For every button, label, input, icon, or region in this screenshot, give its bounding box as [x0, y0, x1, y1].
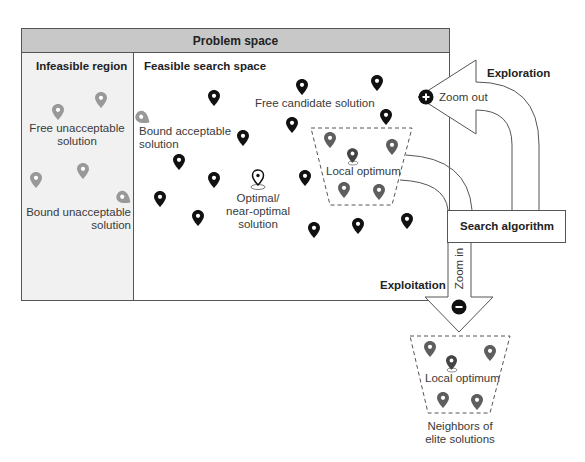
zoom-in-minus-icon: [452, 300, 467, 315]
zoom-out-label: Zoom out: [439, 91, 488, 104]
elite-local-optimum-label: Local optimum: [425, 372, 500, 385]
search-algorithm-label: Search algorithm: [448, 220, 566, 232]
problem-space-title: Problem space: [21, 34, 450, 48]
elite-marker-icon: [437, 392, 449, 408]
exploitation-label: Exploitation: [380, 279, 446, 291]
elite-caption: Neighbors of elite solutions: [410, 420, 510, 446]
elite-optimum-marker-icon: [446, 355, 457, 372]
elite-marker-icon: [424, 341, 436, 357]
elite-marker-icon: [484, 345, 496, 361]
optimal-label: Optimal/ near-optimal solution: [208, 192, 308, 231]
zoom-in-label: Zoom in: [453, 247, 466, 291]
free-unacceptable-label: Free unacceptable solution: [21, 122, 133, 148]
zoom-out-plus-icon: [419, 90, 434, 105]
elite-marker-icon: [471, 394, 483, 410]
bound-acceptable-label: Bound acceptable solution: [139, 125, 231, 151]
feasible-space-title: Feasible search space: [144, 60, 266, 72]
feasible-search-space: [134, 53, 450, 301]
infeasible-region-title: Infeasible region: [36, 60, 127, 72]
bound-unacceptable-label: Bound unacceptable solution: [21, 206, 131, 232]
local-optimum-label: Local optimum: [326, 165, 401, 178]
exploration-label: Exploration: [487, 67, 550, 79]
free-candidate-label: Free candidate solution: [255, 97, 375, 110]
